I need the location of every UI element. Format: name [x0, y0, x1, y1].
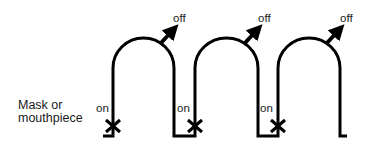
- side-label-line2: mouthpiece: [18, 111, 83, 125]
- arrow-icon: [244, 30, 257, 44]
- waveform-line: [103, 38, 347, 136]
- on-label: on: [96, 102, 109, 114]
- off-label: off: [340, 12, 353, 24]
- off-label: off: [258, 12, 271, 24]
- off-label: off: [173, 12, 186, 24]
- side-label-line1: Mask or: [18, 98, 62, 112]
- arrow-icon: [326, 30, 339, 44]
- arrow-icon: [160, 30, 173, 44]
- breathing-cycle-diagram: Mask or mouthpiece on off on off on off: [0, 0, 377, 152]
- on-label: on: [260, 102, 273, 114]
- on-label: on: [177, 102, 190, 114]
